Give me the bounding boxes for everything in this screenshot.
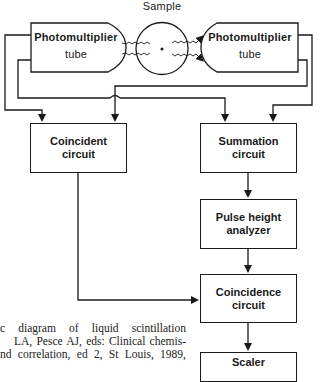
summation-circuit-box: Summation circuit — [200, 123, 297, 173]
pmt-left-line1: Photomultiplier — [31, 31, 121, 44]
coincident-line1: Coincident — [50, 135, 107, 148]
pmt-right-label: Photomultiplier tube — [205, 31, 295, 61]
figure-caption: c diagram of liquid scintillation LA, Pe… — [0, 322, 186, 361]
coincidence-circuit-box: Coincidence circuit — [200, 274, 297, 323]
coincident-line2: circuit — [62, 148, 95, 161]
scaler-box: Scaler — [200, 352, 297, 382]
caption-line3: nd correlation, ed 2, St Louis, 1989, — [0, 348, 186, 361]
scaler-line1: Scaler — [232, 356, 265, 369]
caption-line2: LA, Pesce AJ, eds: Clinical chemis- — [0, 335, 186, 348]
sample-label: Sample — [120, 0, 204, 13]
pmt-right-line1: Photomultiplier — [205, 31, 295, 44]
pmt-left-label: Photomultiplier tube — [31, 31, 121, 61]
coincident-circuit-box: Coincident circuit — [30, 123, 127, 173]
pmt-left-line2: tube — [31, 48, 121, 61]
summation-line1: Summation — [219, 135, 279, 148]
pulse-height-line2: analyzer — [226, 224, 270, 237]
pulse-height-line1: Pulse height — [216, 211, 281, 224]
coincidence-line2: circuit — [232, 299, 265, 312]
coincidence-line1: Coincidence — [216, 286, 281, 299]
pmt-right-line2: tube — [205, 48, 295, 61]
summation-line2: circuit — [232, 148, 265, 161]
pulse-height-analyzer-box: Pulse height analyzer — [200, 199, 297, 249]
caption-line1: c diagram of liquid scintillation — [0, 322, 186, 335]
